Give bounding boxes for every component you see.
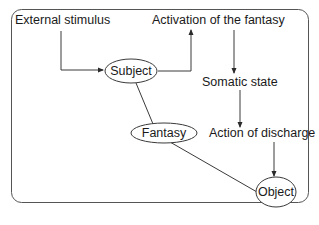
node-subject: Subject (105, 59, 157, 83)
node-external-stimulus: External stimulus (15, 13, 110, 27)
object-label: Object (258, 185, 295, 199)
diagram-canvas: External stimulus Activation of the fant… (0, 0, 319, 225)
node-fantasy: Fantasy (131, 123, 197, 143)
node-object: Object (256, 177, 296, 207)
node-activation-of-fantasy: Activation of the fantasy (152, 13, 285, 27)
edge-stimulus-to-subject (61, 31, 103, 70)
edge-subject-to-activation (158, 30, 191, 71)
node-action-of-discharge: Action of discharge (209, 126, 315, 140)
subject-label: Subject (110, 64, 152, 78)
edge-subject-fantasy (136, 83, 153, 124)
node-somatic-state: Somatic state (202, 75, 278, 89)
fantasy-label: Fantasy (142, 126, 187, 140)
edge-fantasy-object (170, 142, 257, 192)
diagram-frame (12, 10, 309, 203)
